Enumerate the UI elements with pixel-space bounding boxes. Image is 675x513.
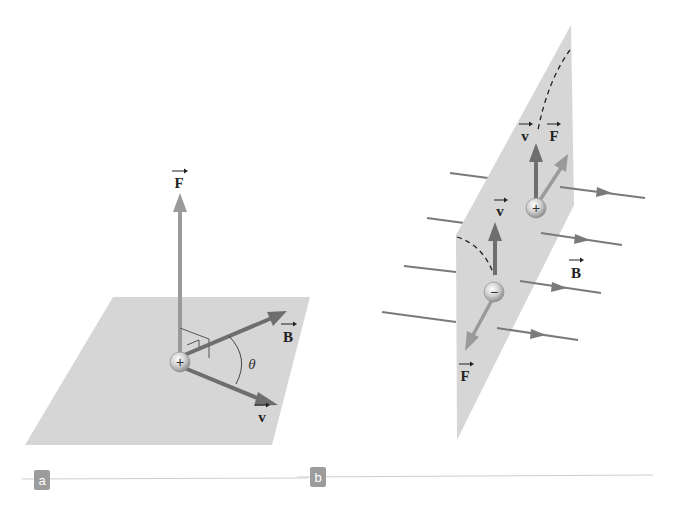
label-B-b: B [569, 258, 584, 282]
positive-charge-a: + [170, 352, 190, 372]
label-F-a: F [172, 169, 188, 192]
svg-text:θ: θ [248, 356, 256, 372]
panel-b: + − v F v [297, 25, 653, 487]
panel-tag-b: b [297, 467, 653, 487]
svg-text:−: − [490, 284, 498, 300]
svg-text:B: B [283, 329, 293, 345]
svg-text:+: + [532, 200, 540, 216]
vertical-plane [456, 25, 574, 440]
positive-charge-b: + [526, 198, 546, 218]
svg-text:B: B [571, 265, 581, 281]
panel-a: + F B θ v a [22, 169, 310, 491]
svg-text:v: v [521, 128, 529, 144]
label-theta: θ [248, 356, 256, 372]
svg-text:v: v [496, 203, 504, 219]
panel-tag-a: a [22, 470, 308, 490]
svg-text:F: F [549, 128, 558, 144]
svg-text:+: + [176, 354, 184, 370]
svg-text:b: b [314, 470, 321, 485]
svg-text:v: v [258, 409, 266, 425]
svg-text:a: a [38, 473, 46, 488]
svg-text:F: F [174, 175, 183, 191]
figure-canvas: + F B θ v a [0, 0, 675, 513]
svg-text:F: F [460, 368, 469, 384]
negative-charge-b: − [484, 282, 504, 302]
